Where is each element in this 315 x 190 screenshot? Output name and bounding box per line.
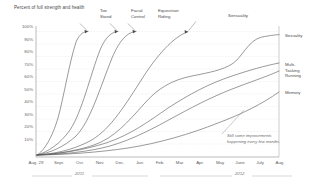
recovery-progress-chart: Percent of full strength and health 100%… (0, 0, 315, 190)
year-label-2011: 2011 (75, 171, 84, 176)
year-span-rules (0, 0, 315, 190)
year-label-2012: 2012 (235, 171, 244, 176)
